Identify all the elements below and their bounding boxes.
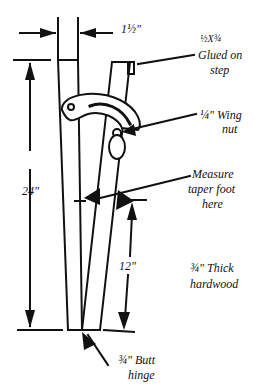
wing-nut-label-line1: ¼" Wing: [200, 108, 242, 122]
step-label-line2: step: [210, 63, 229, 77]
step-label-line1: Glued on: [198, 48, 242, 62]
arc-bracket: [62, 94, 140, 130]
measure-label-line3: here: [202, 197, 223, 211]
hinge-label-line2: hinge: [128, 368, 155, 382]
glued-step: [128, 62, 134, 74]
measure-label-line2: taper foot: [188, 182, 235, 196]
partial-height-label: 12": [119, 259, 136, 273]
wing-nut-label-line2: nut: [222, 122, 237, 136]
measure-label-line1: Measure: [192, 167, 234, 181]
hinge-label-line1: ¾" Butt: [118, 353, 155, 367]
material-label-line1: ¾" Thick: [190, 261, 234, 275]
step-size-label: ½X¾: [200, 32, 221, 46]
width-dimension-label: 1½": [121, 22, 141, 36]
total-height-label: 24": [22, 184, 39, 198]
material-label-line2: hardwood: [190, 277, 238, 291]
